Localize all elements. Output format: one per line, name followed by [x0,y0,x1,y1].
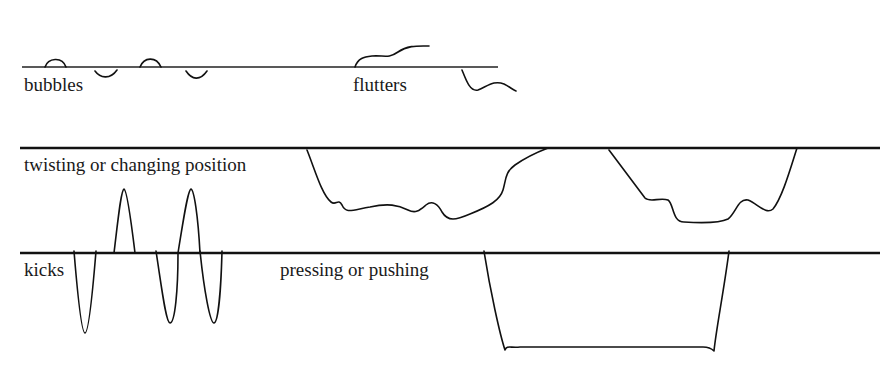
bubble-bump-1 [45,59,66,67]
label-twisting: twisting or changing position [24,155,246,174]
bubble-dip-1 [95,70,117,77]
label-bubbles: bubbles [24,75,83,94]
twist-trough-2 [609,148,797,223]
press-trough [484,251,729,351]
flutter-wave-1 [355,46,429,67]
kick-up-2 [178,189,200,253]
label-kicks: kicks [24,260,64,279]
waveform-drawing [0,0,894,378]
kick-down-2 [156,251,178,323]
bubble-dip-2 [186,71,207,78]
twist-trough-1 [307,148,548,219]
kick-down-1 [74,251,96,333]
flutter-wave-2 [462,70,516,91]
label-flutters: flutters [353,75,407,94]
movement-patterns-diagram: bubbles flutters twisting or changing po… [0,0,894,378]
kick-up-1 [114,189,135,253]
bubble-bump-2 [140,59,161,67]
label-pressing: pressing or pushing [280,260,429,279]
kick-down-3 [200,251,222,323]
